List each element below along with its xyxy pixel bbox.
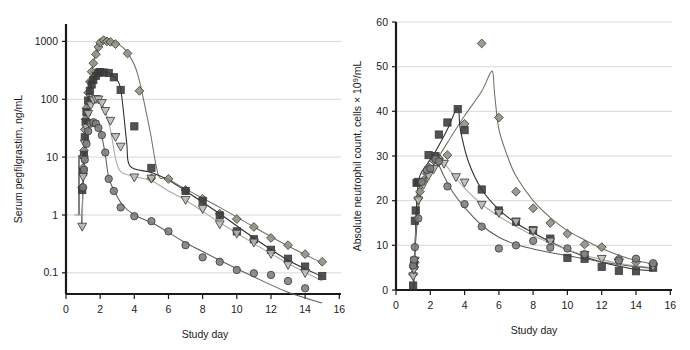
data-point-marker [512, 242, 519, 249]
data-point-marker [101, 108, 110, 116]
data-point-marker [412, 207, 419, 214]
data-point-marker [461, 201, 468, 208]
data-point-marker [165, 228, 172, 235]
data-point-marker [632, 255, 639, 262]
data-point-marker [547, 244, 554, 251]
right-data-markers [409, 39, 658, 289]
data-point-marker [110, 74, 117, 81]
left-y-axis-title: Serum pegfilgrastim, ng/mL [12, 95, 24, 224]
data-point-marker [460, 179, 469, 187]
data-point-marker [461, 126, 468, 133]
data-point-marker [435, 131, 442, 138]
data-point-marker [494, 113, 503, 122]
data-point-marker [267, 271, 274, 278]
right-y-axis-title: Absolute neutrophil count, cells × 109/m… [351, 61, 364, 252]
right-y-axis-title-main: Absolute neutrophil count, cells × 10 [351, 82, 363, 251]
y-tick-label: 1000 [35, 35, 59, 47]
data-point-marker [216, 258, 223, 265]
data-point-marker [415, 215, 422, 222]
data-point-marker [89, 59, 98, 68]
data-point-marker [564, 254, 571, 261]
data-point-marker [131, 123, 138, 130]
data-point-marker [615, 257, 622, 264]
x-tick-label: 16 [664, 299, 676, 311]
left-x-tick-labels: 0246810121416 [63, 303, 345, 315]
x-tick-label: 4 [131, 303, 137, 315]
data-point-marker [130, 174, 139, 182]
data-point-marker [250, 270, 257, 277]
left-y-tick-labels: 10001001010.1 [35, 35, 59, 278]
data-point-marker [529, 204, 538, 213]
x-tick-label: 10 [231, 303, 243, 315]
x-tick-label: 12 [265, 303, 277, 315]
x-tick-label: 14 [630, 299, 642, 311]
data-point-marker [427, 165, 434, 172]
data-point-marker [598, 263, 605, 270]
right-x-axis-title: Study day [511, 324, 558, 336]
y-tick-label: 10 [376, 239, 388, 251]
data-point-marker [85, 128, 92, 135]
data-point-marker [563, 229, 572, 238]
data-point-marker [182, 242, 189, 249]
right-y-axis-title-tail: /mL [351, 61, 363, 79]
data-point-marker [148, 217, 155, 224]
x-tick-label: 2 [97, 303, 103, 315]
data-point-marker [319, 272, 326, 279]
x-tick-label: 6 [496, 299, 502, 311]
data-point-marker [181, 196, 190, 204]
data-point-marker [102, 149, 109, 156]
left-x-axis-title: Study day [182, 328, 229, 340]
data-point-marker [78, 223, 87, 231]
data-point-marker [199, 197, 206, 204]
data-point-marker [131, 213, 138, 220]
data-point-marker [284, 241, 293, 250]
x-tick-label: 8 [530, 299, 536, 311]
data-point-marker [443, 151, 452, 160]
data-point-marker [98, 131, 105, 138]
data-point-marker [284, 277, 291, 284]
data-point-marker [435, 158, 442, 165]
data-point-marker [116, 143, 125, 151]
data-point-marker [81, 156, 88, 163]
figure-two-panel-pk-pd: 10001001010.1 0246810121416 Serum pegfil… [0, 0, 690, 350]
data-point-marker [302, 263, 309, 270]
data-point-marker [267, 250, 276, 258]
data-point-marker [411, 243, 418, 250]
panel-absolute-neutrophil-count: 6050403020100 0246810121416 Absolute neu… [345, 0, 690, 350]
x-tick-label: 8 [200, 303, 206, 315]
data-point-marker [79, 173, 88, 181]
data-point-marker [581, 251, 588, 258]
data-point-marker [495, 245, 502, 252]
data-point-marker [444, 183, 451, 190]
left-chart-svg: 10001001010.1 0246810121416 Serum pegfil… [0, 0, 345, 350]
data-point-marker [418, 178, 425, 185]
data-point-marker [117, 86, 124, 93]
data-point-marker [477, 39, 486, 48]
data-point-marker [117, 204, 124, 211]
data-point-marker [409, 273, 418, 281]
right-y-tick-labels: 6050403020100 [376, 16, 388, 296]
data-point-marker [454, 105, 461, 112]
y-tick-label: 100 [40, 93, 58, 105]
data-point-marker [452, 174, 461, 182]
y-tick-label: 60 [376, 16, 388, 28]
data-point-marker [199, 254, 206, 261]
data-point-marker [564, 245, 571, 252]
y-tick-label: 40 [376, 105, 388, 117]
data-point-marker [529, 237, 536, 244]
data-point-marker [410, 282, 417, 289]
data-point-marker [301, 250, 310, 259]
data-point-marker [110, 187, 117, 194]
y-tick-label: 10 [46, 151, 58, 163]
y-tick-label: 0 [382, 284, 388, 296]
data-point-marker [301, 285, 308, 292]
x-tick-label: 0 [393, 299, 399, 311]
data-point-marker [182, 187, 189, 194]
data-point-marker [512, 187, 521, 196]
y-tick-label: 0.1 [43, 266, 58, 278]
right-chart-svg: 6050403020100 0246810121416 Absolute neu… [345, 0, 690, 350]
data-point-marker [233, 266, 240, 273]
data-point-marker [632, 268, 639, 275]
data-point-marker [410, 256, 417, 263]
data-point-marker [80, 166, 87, 173]
